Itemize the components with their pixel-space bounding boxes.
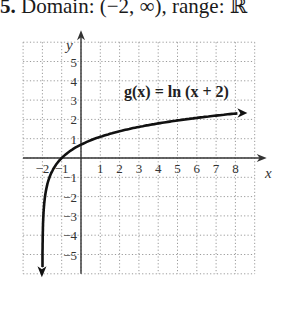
- function-label: g(x) = ln (x + 2): [124, 83, 229, 101]
- x-tick-label: 8: [232, 161, 239, 176]
- y-tick-label: 4: [71, 74, 78, 89]
- y-tick-label: −1: [63, 170, 77, 185]
- x-tick-label: 3: [136, 161, 143, 176]
- x-tick-label: 6: [194, 161, 201, 176]
- y-tick-label: −3: [63, 209, 77, 224]
- log-function-chart: −2−11234567854321−1−2−3−4−5 g(x) = ln (x…: [0, 0, 287, 319]
- y-axis-label: y: [64, 37, 73, 53]
- y-tick-label: −5: [63, 248, 77, 263]
- y-tick-label: −2: [63, 190, 77, 205]
- x-tick-label: 2: [116, 161, 123, 176]
- x-tick-label: 1: [97, 161, 104, 176]
- x-tick-label: 7: [213, 161, 220, 176]
- x-axis-label: x: [264, 165, 272, 181]
- y-tick-label: 5: [71, 55, 78, 70]
- y-tick-label: 2: [71, 112, 78, 127]
- x-tick-label: 5: [174, 161, 181, 176]
- x-tick-label: 4: [155, 161, 162, 176]
- y-tick-label: 3: [71, 93, 78, 108]
- axes: [23, 30, 267, 274]
- curve-right-arrow-icon: [237, 108, 247, 118]
- y-tick-label: −4: [63, 228, 77, 243]
- x-tick-label: −2: [35, 161, 49, 176]
- y-tick-label: 1: [71, 132, 78, 147]
